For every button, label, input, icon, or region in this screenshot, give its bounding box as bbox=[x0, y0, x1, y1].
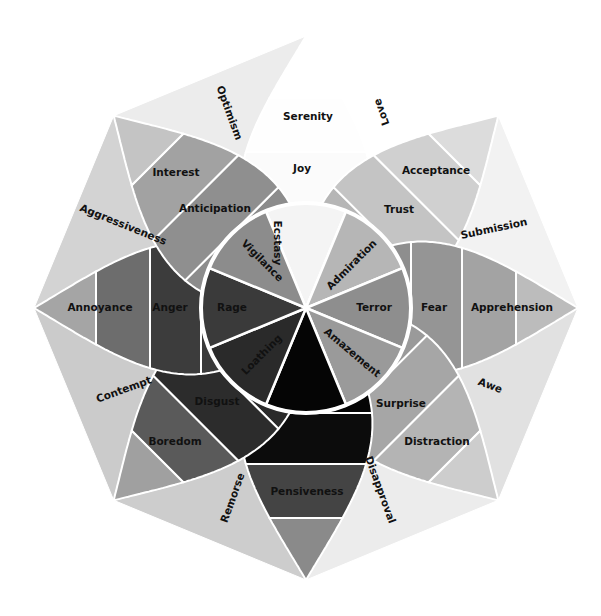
label-apprehension: Apprehension bbox=[471, 301, 553, 313]
label-serenity: Serenity bbox=[283, 110, 333, 122]
emotion-wheel: EcstasyJoySerenityAdmirationTrustAccepta… bbox=[0, 0, 601, 616]
label-annoyance: Annoyance bbox=[67, 301, 132, 313]
label-terror: Terror bbox=[356, 301, 392, 313]
label-boredom: Boredom bbox=[148, 435, 201, 447]
label-joy: Joy bbox=[292, 162, 311, 174]
label-surprise: Surprise bbox=[376, 397, 426, 409]
label-rage: Rage bbox=[217, 301, 247, 313]
label-acceptance: Acceptance bbox=[402, 164, 470, 176]
label-anticipation: Anticipation bbox=[179, 202, 251, 214]
label-fear: Fear bbox=[421, 301, 448, 313]
label-trust: Trust bbox=[384, 203, 414, 215]
label-ecstasy: Ecstasy bbox=[272, 221, 284, 266]
label-distraction: Distraction bbox=[404, 435, 469, 447]
label-anger: Anger bbox=[152, 301, 188, 313]
label-disgust: Disgust bbox=[195, 395, 240, 407]
label-interest: Interest bbox=[152, 166, 199, 178]
label-pensiveness: Pensiveness bbox=[270, 485, 343, 497]
